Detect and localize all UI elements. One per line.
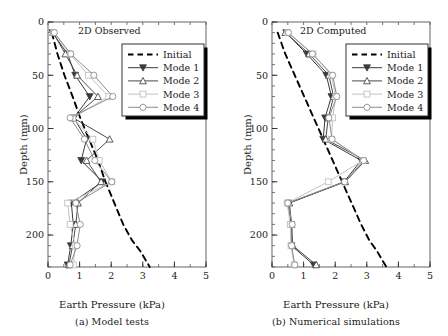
y-tick-label: 50 <box>256 70 268 81</box>
panel-a-title: 2D Observed <box>78 25 141 36</box>
x-tick-label: 5 <box>427 270 433 281</box>
panel-a-xaxis-title: Earth Pressure (kPa) <box>0 299 224 310</box>
x-tick-label: 0 <box>269 270 275 281</box>
data-point-marker <box>140 104 146 110</box>
x-tick-label: 1 <box>301 270 307 281</box>
panel-b-xaxis-title: Earth Pressure (kPa) <box>224 299 448 310</box>
data-point-marker <box>289 221 295 227</box>
panel-numerical-simulations: 012345050100150200InitialMode 1Mode 2Mod… <box>224 0 448 336</box>
data-point-marker <box>68 51 74 57</box>
legend-label: Initial <box>387 49 415 60</box>
data-point-marker <box>288 243 294 249</box>
legend-label: Initial <box>163 49 191 60</box>
panel-b-title: 2D Computed <box>300 25 366 36</box>
data-point-marker <box>325 179 331 185</box>
data-point-marker <box>67 262 73 268</box>
x-tick-label: 3 <box>364 270 370 281</box>
data-point-marker <box>361 157 367 163</box>
y-tick-label: 150 <box>250 176 268 187</box>
data-point-marker <box>110 93 116 99</box>
data-point-marker <box>334 93 340 99</box>
data-point-marker <box>292 262 298 268</box>
y-tick-label: 0 <box>38 16 44 27</box>
data-point-marker <box>67 221 73 227</box>
data-point-marker <box>65 200 71 206</box>
data-point-marker <box>364 91 370 97</box>
legend-label: Mode 4 <box>163 102 199 113</box>
data-point-marker <box>106 136 113 142</box>
x-tick-label: 5 <box>203 270 209 281</box>
legend-label: Mode 3 <box>163 89 199 100</box>
x-tick-label: 2 <box>332 270 338 281</box>
data-point-marker <box>285 30 291 36</box>
data-point-marker <box>67 115 73 121</box>
data-point-marker <box>92 157 98 163</box>
x-tick-label: 4 <box>395 270 401 281</box>
legend-label: Mode 2 <box>163 75 199 86</box>
panel-model-tests: 012345050100150200InitialMode 1Mode 2Mod… <box>0 0 224 336</box>
x-tick-label: 2 <box>108 270 114 281</box>
data-point-marker <box>285 200 291 206</box>
series-mode-2 <box>50 29 113 268</box>
data-point-marker <box>364 104 370 110</box>
data-point-marker <box>309 51 315 57</box>
data-point-marker <box>326 115 332 121</box>
data-point-marker <box>140 91 146 97</box>
x-tick-label: 0 <box>45 270 51 281</box>
y-tick-label: 200 <box>26 229 44 240</box>
y-tick-label: 150 <box>26 176 44 187</box>
data-point-marker <box>109 179 115 185</box>
legend-label: Mode 4 <box>387 102 423 113</box>
series-line <box>54 33 112 265</box>
legend-label: Mode 1 <box>163 62 199 73</box>
data-point-marker <box>342 179 348 185</box>
data-point-marker <box>51 30 57 36</box>
legend-label: Mode 3 <box>387 89 423 100</box>
panel-b-caption: (b) Numerical simulations <box>224 316 448 327</box>
y-tick-label: 50 <box>32 70 44 81</box>
legend-label: Mode 2 <box>387 75 423 86</box>
panel-a-yaxis-title: Depth (mm) <box>18 114 29 175</box>
x-tick-label: 3 <box>140 270 146 281</box>
data-point-marker <box>77 221 83 227</box>
series-mode-1 <box>49 30 106 269</box>
panel-a-caption: (a) Model tests <box>0 316 224 327</box>
figure-root: 012345050100150200InitialMode 1Mode 2Mod… <box>0 0 448 336</box>
plot-a-svg: 012345050100150200InitialMode 1Mode 2Mod… <box>0 0 224 300</box>
panel-b-yaxis-title: Depth (mm) <box>242 114 253 175</box>
data-point-marker <box>74 243 80 249</box>
y-tick-label: 200 <box>250 229 268 240</box>
legend-label: Mode 1 <box>387 62 423 73</box>
data-point-marker <box>90 136 96 142</box>
data-point-marker <box>81 136 87 142</box>
y-tick-label: 0 <box>262 16 268 27</box>
data-point-marker <box>91 72 97 78</box>
data-point-marker <box>73 200 79 206</box>
x-tick-label: 1 <box>77 270 83 281</box>
data-point-marker <box>329 136 335 142</box>
series-line <box>52 33 102 265</box>
x-tick-label: 4 <box>171 270 177 281</box>
data-point-marker <box>330 72 336 78</box>
plot-b-svg: 012345050100150200InitialMode 1Mode 2Mod… <box>224 0 448 300</box>
